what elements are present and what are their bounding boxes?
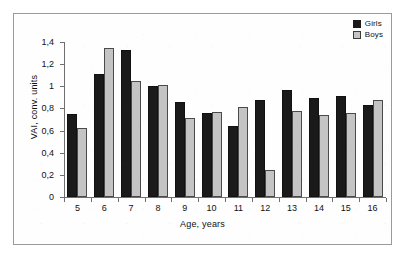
x-axis-label-6: 6 (102, 203, 107, 213)
bar-group-age-9 (171, 102, 198, 197)
bar-boys-age-16 (373, 100, 383, 197)
legend-label-girls: Girls (365, 20, 382, 28)
legend-entry-boys: Boys (353, 31, 383, 39)
bar-girls-age-7 (121, 50, 131, 197)
bar-boys-age-9 (185, 118, 195, 197)
bar-boys-age-13 (292, 111, 302, 197)
bar-group-age-14 (306, 98, 333, 197)
y-axis-tick-label: 0,6 (41, 126, 54, 136)
bar-boys-age-10 (212, 112, 222, 197)
x-axis-tick (198, 198, 199, 202)
x-axis-tick (279, 198, 280, 202)
bar-girls-age-6 (94, 74, 104, 197)
bar-group-age-16 (359, 100, 386, 197)
y-axis-tick-label: 1,4 (41, 37, 54, 47)
x-axis-label-10: 10 (207, 203, 217, 213)
bar-boys-age-5 (77, 128, 87, 197)
chart-figure-frame: Girls Boys VAI, conv. units 00,20,40,60,… (13, 13, 392, 245)
x-axis-title: Age, years (14, 219, 391, 229)
x-axis-label-13: 13 (287, 203, 297, 213)
legend-swatch-boys-icon (353, 31, 361, 39)
bar-girls-age-16 (363, 105, 373, 197)
y-axis-tick: 1,2 (60, 64, 64, 65)
x-axis-label-12: 12 (260, 203, 270, 213)
bar-group-age-15 (332, 96, 359, 197)
y-axis-tick-label: 1,2 (41, 59, 54, 69)
bar-group-age-11 (225, 107, 252, 197)
bar-girls-age-9 (175, 102, 185, 197)
x-axis-tick (145, 198, 146, 202)
y-axis-tick-label: 0,8 (41, 103, 54, 113)
bar-boys-age-15 (346, 113, 356, 197)
chart-legend: Girls Boys (353, 20, 383, 39)
x-axis-label-16: 16 (368, 203, 378, 213)
plot-area: 00,20,40,60,811,21,4 5678910111213141516 (64, 42, 386, 198)
bar-girls-age-11 (228, 126, 238, 197)
bar-group-age-10 (198, 112, 225, 197)
x-axis-tick (359, 198, 360, 202)
bar-girls-age-15 (336, 96, 346, 197)
x-axis-tick (118, 198, 119, 202)
bar-group-age-13 (279, 90, 306, 197)
x-axis-label-5: 5 (75, 203, 80, 213)
y-axis-tick: 0,8 (60, 108, 64, 109)
x-axis-tick (306, 198, 307, 202)
bar-girls-age-14 (309, 98, 319, 197)
x-axis-tick (171, 198, 172, 202)
bar-boys-age-8 (158, 85, 168, 197)
legend-label-boys: Boys (365, 31, 383, 39)
y-axis-tick-label: 0 (49, 192, 54, 202)
bar-group-age-12 (252, 100, 279, 197)
bar-girls-age-5 (67, 114, 77, 197)
y-axis-tick-label: 0,4 (41, 148, 54, 158)
legend-entry-girls: Girls (353, 20, 382, 28)
x-axis-label-9: 9 (182, 203, 187, 213)
bar-group-age-5 (64, 114, 91, 197)
x-axis-tick (332, 198, 333, 202)
bar-group-age-7 (118, 50, 145, 197)
bar-boys-age-6 (104, 48, 114, 197)
x-axis-tick (225, 198, 226, 202)
bar-group-age-6 (91, 48, 118, 197)
x-axis-tick (91, 198, 92, 202)
bar-girls-age-10 (202, 113, 212, 197)
y-axis-tick-label: 1 (49, 81, 54, 91)
bar-boys-age-11 (238, 107, 248, 197)
x-axis-label-11: 11 (234, 203, 243, 213)
x-axis-label-8: 8 (155, 203, 160, 213)
y-axis-tick-label: 0,2 (41, 170, 54, 180)
x-axis-tick (64, 198, 65, 202)
y-axis-tick: 1,4 (60, 42, 64, 43)
y-axis-tick: 1 (60, 86, 64, 87)
x-axis-label-15: 15 (341, 203, 351, 213)
bar-group-age-8 (145, 85, 172, 197)
bar-girls-age-12 (255, 100, 265, 197)
y-axis-title: VAI, conv. units (29, 42, 39, 172)
bar-boys-age-14 (319, 115, 329, 197)
legend-swatch-girls-icon (353, 20, 361, 28)
bar-girls-age-13 (282, 90, 292, 197)
x-axis-label-14: 14 (314, 203, 324, 213)
bar-boys-age-12 (265, 170, 275, 197)
x-axis-tick (386, 198, 387, 202)
x-axis-label-7: 7 (129, 203, 134, 213)
x-axis-tick (252, 198, 253, 202)
bar-girls-age-8 (148, 86, 158, 197)
bar-boys-age-7 (131, 81, 141, 197)
